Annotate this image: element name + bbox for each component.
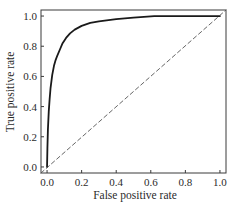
y-axis-label: True positive rate [4,52,17,133]
series-layer [41,10,226,173]
x-tick-label: 0.4 [109,176,123,188]
y-tick-label: 1.0 [23,10,37,22]
y-tick-label: 0.2 [23,131,37,143]
x-axis-label: False positive rate [93,189,177,202]
y-tick-label: 0.4 [23,101,37,113]
y-tick-label: 0.0 [23,161,37,173]
x-tick-label: 0.2 [75,176,89,188]
x-tick-label: 0.0 [40,176,54,188]
roc-chart: 0.00.20.40.60.81.0 0.00.20.40.60.81.0 Fa… [0,0,235,211]
x-tick-label: 0.8 [178,176,192,188]
x-tick-label: 1.0 [213,176,227,188]
y-tick-label: 0.6 [23,70,37,82]
x-tick-label: 0.6 [144,176,158,188]
y-tick-label: 0.8 [23,40,37,52]
